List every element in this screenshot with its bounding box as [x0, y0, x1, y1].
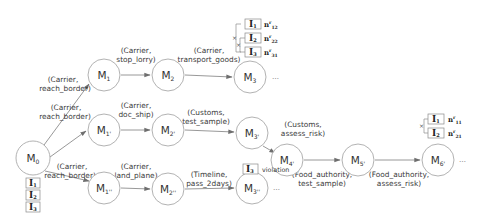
- node-m1-prime: M1': [88, 114, 120, 146]
- edge-m2-m3: [185, 75, 232, 77]
- process-diagram: (Carrier,reach_border) (Carrier,stop_lor…: [0, 0, 483, 214]
- edge-label-m1-m2: (Carrier,stop_lorry): [116, 46, 156, 64]
- svg-text:nr31: nr31: [264, 48, 278, 58]
- m3-item-i3: I3 nr31: [245, 47, 278, 58]
- item-box-i1: I1: [26, 178, 40, 188]
- x-mark-outer: ×: [232, 34, 237, 41]
- edge-label-m0-m1pp: (Carrier,reach_border): [44, 162, 96, 180]
- ellipsis-m6-prime: …: [459, 156, 466, 164]
- initial-items: I1 I2 I3: [26, 178, 40, 212]
- svg-text:nr21: nr21: [448, 129, 462, 139]
- edge-label-m1p-m2p: (Carrier,doc_ship): [118, 101, 153, 119]
- m3-item-i2: I2 nr22: [245, 33, 278, 44]
- violation-label: violation: [262, 166, 289, 174]
- edge-label-m0-m1: (Carrier,reach_border): [39, 75, 91, 93]
- svg-text:nr11: nr11: [448, 115, 462, 125]
- node-m1-double-prime: M1'': [88, 172, 120, 204]
- m3-items: × × I1 nr12 I2 nr22 I3 nr31: [232, 19, 278, 58]
- edge-label-m2p-m3p: (Customs,test_sample): [182, 108, 230, 126]
- node-m2-prime: M2': [152, 114, 184, 146]
- ellipsis-m3: …: [272, 73, 279, 81]
- node-m1: M1: [88, 59, 120, 91]
- edge-label-m4p-m5p: (Food_authority,test_sample): [292, 170, 352, 188]
- node-m3-prime: M3': [236, 117, 268, 149]
- node-m3: M3: [234, 61, 266, 93]
- m6p-items: × I1 nr11 I2 nr21: [419, 114, 462, 139]
- edge-m0-m1p: [50, 131, 86, 157]
- m6p-item-i2: I2 nr21: [428, 128, 462, 139]
- item-box-i3: I3: [26, 202, 40, 212]
- violation-annotation: I3 violation: [243, 164, 289, 174]
- node-m5-prime: M5': [342, 144, 374, 176]
- edge-label-m1pp-m2pp: (Carrier,land_plane): [114, 162, 157, 180]
- edge-m1pp-m2pp: [121, 188, 150, 189]
- node-m3-double-prime: M3'': [236, 172, 268, 204]
- item-box-i2: I2: [26, 190, 40, 200]
- edge-label-m2-m3: (Carrier,transport_goods): [177, 46, 240, 64]
- m6p-item-i1: I1 nr11: [428, 114, 462, 125]
- x-mark-m6p: ×: [419, 122, 424, 129]
- node-m2: M2: [152, 59, 184, 91]
- edge-label-m5p-m6p: (Food_authority,assess_risk): [369, 170, 429, 188]
- x-mark-inner: ×: [236, 41, 241, 48]
- m3-item-i1: I1 nr12: [245, 19, 278, 30]
- violation-item-i3: I3: [243, 164, 258, 174]
- edge-m2p-m3p: [185, 130, 234, 132]
- node-m6-prime: M6': [422, 144, 454, 176]
- edge-m2pp-m3pp: [185, 188, 234, 189]
- node-m2-double-prime: M2'': [152, 173, 184, 205]
- svg-text:nr22: nr22: [264, 34, 278, 44]
- ellipsis-m3-double-prime: …: [273, 184, 280, 192]
- svg-text:nr12: nr12: [264, 20, 278, 30]
- bracket-m6p: [424, 119, 428, 133]
- edge-label-m3p-m4p: (Customs,assess_risk): [281, 120, 325, 138]
- edge-label-m2pp-m3pp: (Timeline,pass_2days): [186, 170, 232, 188]
- edge-label-m0-m1p: (Carrier,reach_border): [39, 103, 91, 121]
- node-m0: M0: [16, 141, 50, 175]
